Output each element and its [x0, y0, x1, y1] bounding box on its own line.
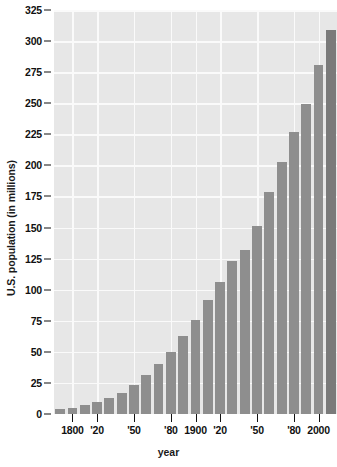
y-axis-tick-mark [44, 320, 51, 321]
x-axis-tick-label: '20 [90, 424, 104, 436]
bar [252, 226, 262, 414]
bar [104, 398, 114, 414]
y-axis-tick-label: 25 [0, 377, 42, 389]
x-axis-tick-mark [171, 414, 172, 422]
y-axis-tick-label: 200 [0, 159, 42, 171]
bar [80, 405, 90, 414]
y-axis-tick-label: 50 [0, 346, 42, 358]
y-axis-tick-mark [44, 103, 51, 104]
x-axis-tick-label: 1800 [61, 424, 84, 436]
y-axis-tick-label: 325 [0, 4, 42, 16]
y-axis-tick-label: 250 [0, 97, 42, 109]
bar [215, 282, 225, 414]
bar [227, 261, 237, 414]
y-axis-tick-mark [44, 414, 51, 415]
bar [129, 385, 139, 414]
y-axis-tick-label: 225 [0, 128, 42, 140]
bar [191, 320, 201, 414]
x-axis-title: year [0, 446, 337, 458]
bar [203, 300, 213, 414]
bar [314, 65, 324, 414]
bar [301, 104, 311, 414]
x-axis-tick-mark [97, 414, 98, 422]
gridline-vertical [134, 10, 136, 414]
bar [154, 364, 164, 414]
x-axis-tick-label: '80 [164, 424, 178, 436]
bar [264, 192, 274, 415]
x-axis-tick-label: 2000 [307, 424, 330, 436]
y-axis-tick-label: 0 [0, 408, 42, 420]
y-axis-tick-label: 100 [0, 284, 42, 296]
y-axis-tick-mark [44, 72, 51, 73]
x-axis-tick-mark [72, 414, 73, 422]
y-axis-tick-mark [44, 165, 51, 166]
y-axis-tick-mark [44, 134, 51, 135]
y-axis-tick-mark [44, 258, 51, 259]
x-axis-tick-label: 1900 [184, 424, 207, 436]
x-axis-tick-mark [257, 414, 258, 422]
y-axis-tick-label: 175 [0, 190, 42, 202]
y-axis-tick-mark [44, 227, 51, 228]
x-axis-tick-label: '80 [287, 424, 301, 436]
bar [166, 352, 176, 414]
x-axis-tick-mark [220, 414, 221, 422]
bar [289, 132, 299, 414]
y-axis-tick-mark [44, 382, 51, 383]
x-axis-tick-mark [294, 414, 295, 422]
bar [92, 402, 102, 414]
gridline-vertical [97, 10, 99, 414]
bar [178, 336, 188, 414]
y-axis-tick-label: 275 [0, 66, 42, 78]
x-axis-tick-mark [134, 414, 135, 422]
bar [141, 375, 151, 414]
plot-area [54, 10, 337, 414]
gridline-vertical [72, 10, 74, 414]
x-axis-tick-label: '50 [250, 424, 264, 436]
bar [326, 30, 336, 414]
y-axis-tick-label: 150 [0, 222, 42, 234]
bar [277, 162, 287, 414]
y-axis-tick-mark [44, 196, 51, 197]
y-axis-tick-label: 75 [0, 315, 42, 327]
y-axis-tick-label: 300 [0, 35, 42, 47]
x-axis-tick-label: '20 [213, 424, 227, 436]
x-axis-tick-mark [196, 414, 197, 422]
bar [117, 393, 127, 414]
y-axis-tick-label: 125 [0, 253, 42, 265]
x-axis-tick-label: '50 [127, 424, 141, 436]
x-axis-tick-mark [319, 414, 320, 422]
y-axis-tick-mark [44, 41, 51, 42]
bar [55, 409, 65, 414]
y-axis-tick-mark [44, 289, 51, 290]
population-bar-chart: U.S. population (in millions) year 02550… [0, 0, 337, 467]
bar [240, 250, 250, 414]
y-axis-tick-mark [44, 10, 51, 11]
y-axis-tick-mark [44, 351, 51, 352]
